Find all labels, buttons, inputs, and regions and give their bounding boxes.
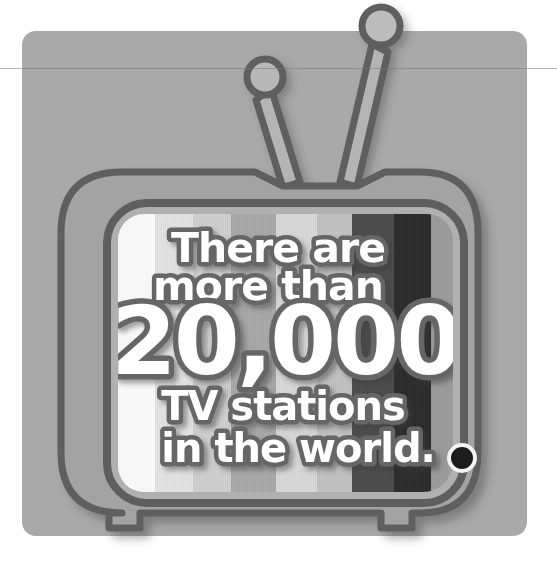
antenna-left-tip-icon	[247, 59, 283, 95]
antenna-right-tip-icon	[362, 7, 400, 45]
bar-light-gray	[155, 214, 193, 492]
poster-stage: There are more than 20,000 TV stations i…	[0, 0, 557, 571]
bar-pale-gray	[193, 214, 231, 492]
antenna-group	[247, 7, 400, 188]
bar-dark-gray	[352, 214, 394, 492]
bar-white	[118, 214, 155, 492]
bar-light-warm	[317, 214, 352, 492]
tv-screen	[118, 214, 453, 492]
bar-mid-gray	[231, 214, 276, 492]
bar-near-black	[394, 214, 432, 492]
bar-soft-gray	[276, 214, 316, 492]
dial-knob-icon[interactable]	[447, 443, 477, 473]
antenna-right-icon	[340, 44, 388, 187]
